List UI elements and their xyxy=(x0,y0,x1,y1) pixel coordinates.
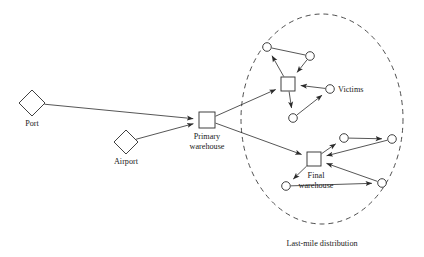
edge-beneficiary4-to-final xyxy=(326,163,377,181)
node-airport[interactable] xyxy=(114,130,138,154)
edge-primary-to-final xyxy=(216,123,302,154)
edge-port-to-primary xyxy=(44,104,193,118)
node-label-port: Port xyxy=(25,119,39,128)
node-victim-3[interactable] xyxy=(326,85,335,94)
network-diagram: Port Airport Primary warehouse Final war… xyxy=(0,0,424,257)
node-victims-hub[interactable] xyxy=(281,77,295,91)
edge-victim3-to-victimshub xyxy=(301,86,325,89)
edge-beneficiary1-to-beneficiary2 xyxy=(349,138,382,139)
node-label-primary-warehouse-line2: warehouse xyxy=(189,142,224,151)
node-primary-warehouse[interactable] xyxy=(199,112,215,128)
node-label-final-warehouse-line2: warehouse xyxy=(298,181,333,190)
edge-airport-to-primary xyxy=(136,124,193,140)
node-label-primary-warehouse-line1: Primary xyxy=(194,132,221,141)
edge-victimshub-to-victim1 xyxy=(272,56,284,77)
edge-final-to-beneficiary1 xyxy=(321,144,335,154)
edge-victim4-to-victim3 xyxy=(297,95,322,115)
edge-victim2-to-victimshub xyxy=(297,60,307,73)
edge-victimshub-to-victim4 xyxy=(289,92,291,108)
node-beneficiary-2[interactable] xyxy=(388,135,397,144)
node-final-warehouse[interactable] xyxy=(307,152,321,166)
node-victim-2[interactable] xyxy=(306,52,315,61)
node-victim-1[interactable] xyxy=(263,43,272,52)
last-mile-distribution-caption: Last-mile distribution xyxy=(286,239,357,248)
edges-layer xyxy=(44,48,387,186)
node-label-final-warehouse-line1: Final xyxy=(308,171,326,180)
edge-primary-to-victims-hub xyxy=(216,89,276,116)
edge-victim1-to-victim2 xyxy=(272,48,305,55)
node-port[interactable] xyxy=(19,90,45,116)
node-victim-4[interactable] xyxy=(289,114,298,123)
victims-label: Victims xyxy=(338,85,363,94)
node-label-airport: Airport xyxy=(114,157,139,166)
edge-final-to-beneficiary3 xyxy=(293,166,306,179)
node-beneficiary-3[interactable] xyxy=(282,182,291,191)
edge-beneficiary2-to-final xyxy=(327,140,388,156)
node-beneficiary-1[interactable] xyxy=(340,134,349,143)
diagram-canvas: Port Airport Primary warehouse Final war… xyxy=(0,0,424,257)
node-beneficiary-4[interactable] xyxy=(378,179,387,188)
